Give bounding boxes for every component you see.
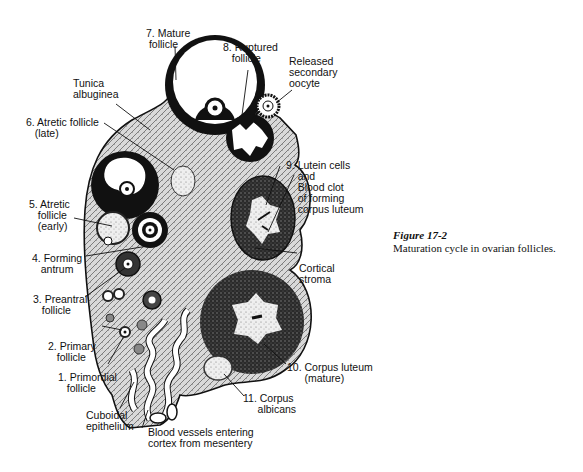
label-preantral-follicle: 3. Preantral follicle [33, 294, 87, 316]
label-atretic-follicle-early: 5. Atretic follicle (early) [29, 199, 70, 232]
label-corpus-albicans: 11. Corpus albicans [243, 393, 296, 415]
label-primary-follicle: 2. Primary follicle [48, 341, 96, 363]
figure-description: Maturation cycle in ovarian follicles. [393, 242, 556, 255]
ovarian-follicle-figure: 7. Mature follicle 8. Ruptured follicle … [0, 0, 583, 472]
label-tunica-albuginea: Tunica albuginea [73, 78, 119, 100]
atretic-late-follicle-shape [171, 166, 195, 196]
label-corpus-luteum-mature: 10. Corpus luteum (mature) [287, 362, 373, 384]
label-blood-vessels: Blood vessels entering cortex from mesen… [148, 427, 254, 449]
label-ruptured-follicle: 8. Ruptured follicle [223, 42, 278, 64]
label-atretic-follicle-late: 6. Atretic follicle (late) [26, 117, 99, 139]
atretic-early-follicle-shape [97, 212, 129, 245]
released-oocyte-shape [257, 95, 279, 117]
figure-caption: Figure 17-2 Maturation cycle in ovarian … [393, 229, 556, 255]
label-cuboidal-epithelium: Cuboidal epithelium [86, 410, 134, 432]
large-atretic-follicle-shape [91, 151, 159, 219]
label-primordial-follicle: 1. Primordial follicle [58, 372, 117, 394]
label-cortical-stroma: Cortical stroma [299, 263, 335, 285]
corpus-albicans-shape [204, 356, 232, 380]
label-lutein-cells-blood-clot: 9. Lutein cells and Blood clot of formin… [286, 160, 364, 215]
forming-antrum-follicle-shape [132, 212, 168, 248]
label-released-secondary-oocyte: Released secondary oocyte [289, 56, 337, 89]
label-mature-follicle: 7. Mature follicle [146, 28, 190, 50]
label-forming-antrum: 4. Forming antrum [32, 253, 82, 275]
figure-number: Figure 17-2 [393, 229, 556, 242]
